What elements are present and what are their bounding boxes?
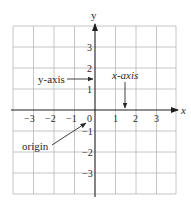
y-tick-neg1: −1 xyxy=(82,126,93,137)
y-tick-2: 2 xyxy=(87,63,92,74)
y-axis-callout: y-axis xyxy=(38,73,65,85)
x-tick-1: 1 xyxy=(113,113,118,124)
x-axis-callout: x-axis xyxy=(111,69,138,81)
origin-tick: 0 xyxy=(87,113,92,124)
y-tick-neg2: −2 xyxy=(82,147,93,158)
x-tick-3: 3 xyxy=(154,113,159,124)
origin-callout: origin xyxy=(22,140,49,152)
y-tick-3: 3 xyxy=(87,42,92,53)
x-tick-neg3: −3 xyxy=(24,113,35,124)
x-axis-name: x xyxy=(180,104,186,116)
coordinate-plane: x y −3 −2 −1 0 1 2 3 3 2 1 −1 −2 −3 y-ax… xyxy=(0,0,191,202)
x-tick-neg2: −2 xyxy=(45,113,56,124)
y-tick-neg3: −3 xyxy=(82,168,93,179)
x-tick-neg1: −1 xyxy=(66,113,77,124)
origin-pointer-arrow xyxy=(52,123,86,145)
y-tick-1: 1 xyxy=(87,84,92,95)
y-axis-name: y xyxy=(91,9,97,21)
x-tick-2: 2 xyxy=(133,113,138,124)
